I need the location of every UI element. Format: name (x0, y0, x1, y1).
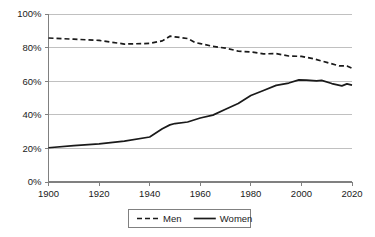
chart-legend: MenWomen (128, 210, 252, 228)
legend-label-men: Men (163, 213, 181, 224)
data-series-group (49, 36, 353, 148)
x-tick-label: 2000 (291, 188, 312, 199)
x-tick-label: 1960 (190, 188, 211, 199)
y-tick-label: 60% (22, 76, 42, 87)
y-axis-labels-group: 0%20%40%60%80%100% (17, 8, 42, 187)
x-tick-label: 2020 (341, 188, 362, 199)
y-tick-label: 0% (28, 176, 42, 187)
x-tick-label: 1980 (240, 188, 261, 199)
series-line-women (49, 80, 353, 148)
y-tick-label: 40% (22, 109, 42, 120)
x-tick-label: 1900 (38, 188, 59, 199)
y-tick-label: 20% (22, 143, 42, 154)
axes-group (49, 14, 353, 182)
legend-label-women: Women (220, 213, 253, 224)
y-tick-label: 100% (17, 8, 42, 19)
x-axis-labels-group: 1900192019401960198020002020 (38, 188, 363, 199)
line-chart: 0%20%40%60%80%100% 190019201940196019802… (0, 0, 375, 237)
series-line-men (49, 36, 353, 68)
x-tick-label: 1940 (139, 188, 160, 199)
y-tick-label: 80% (22, 42, 42, 53)
gridlines-group (49, 14, 353, 148)
x-tick-label: 1920 (89, 188, 110, 199)
chart-container: 0%20%40%60%80%100% 190019201940196019802… (0, 0, 375, 237)
